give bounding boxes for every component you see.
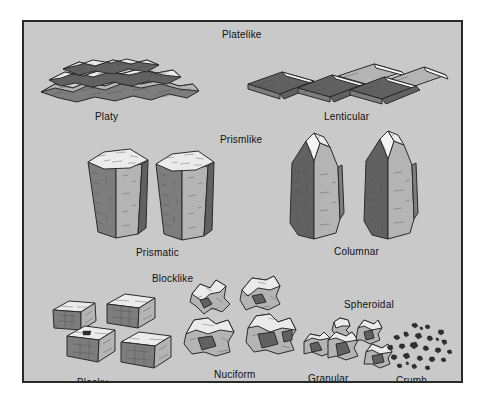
lenticular-illustration xyxy=(246,54,448,110)
prismatic-illustration xyxy=(82,138,222,242)
specimen-label-crumb: Crumb xyxy=(396,376,427,383)
specimen-prismatic: Prismatic xyxy=(82,138,222,242)
specimen-label-nuciform: Nuciform xyxy=(214,370,256,380)
columnar-illustration xyxy=(284,127,430,243)
crumb-illustration xyxy=(382,322,456,372)
category-label-prismlike: Prismlike xyxy=(220,135,262,145)
blocky-illustration xyxy=(49,290,199,374)
specimen-columnar: Columnar xyxy=(284,127,430,243)
soil-structure-figure: Platelike Prismlike Blocklike Spheroidal xyxy=(22,20,463,383)
specimen-nuciform: Nuciform xyxy=(182,272,304,368)
specimen-label-prismatic: Prismatic xyxy=(136,248,179,258)
specimen-label-columnar: Columnar xyxy=(334,247,379,257)
specimen-crumb: Crumb xyxy=(382,322,456,372)
nuciform-illustration xyxy=(182,272,304,368)
specimen-blocky: Blocky xyxy=(49,290,199,374)
specimen-label-platy: Platy xyxy=(95,112,118,122)
specimen-label-blocky: Blocky xyxy=(77,378,108,383)
specimen-platy: Platy xyxy=(29,44,209,110)
platy-illustration xyxy=(29,44,209,110)
category-label-platelike: Platelike xyxy=(222,30,262,40)
category-label-spheroidal: Spheroidal xyxy=(344,300,394,310)
specimen-label-granular: Granular xyxy=(308,374,349,383)
specimen-label-lenticular: Lenticular xyxy=(324,112,369,122)
specimen-lenticular: Lenticular xyxy=(246,54,448,110)
